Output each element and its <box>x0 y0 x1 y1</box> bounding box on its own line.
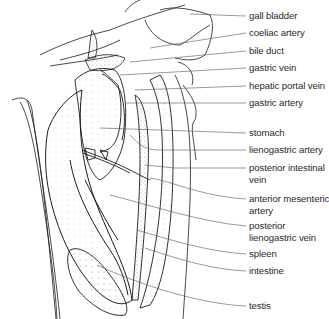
label-gastric-vein: gastric vein <box>249 62 296 74</box>
label-text: posterior <box>249 220 316 232</box>
label-anterior-mesenteric-artery: anterior mesenteric artery <box>249 193 329 217</box>
spleen-outline <box>132 75 173 308</box>
label-text: posterior intestinal <box>249 162 325 174</box>
label-gastric-artery: gastric artery <box>249 97 303 109</box>
label-text: gall bladder <box>249 10 297 21</box>
label-text: hepatic portal vein <box>249 80 325 91</box>
label-coeliac-artery: coeliac artery <box>249 27 305 39</box>
label-posterior-intestinal-vein: posterior intestinal vein <box>249 162 325 186</box>
label-text: vein <box>249 174 325 186</box>
label-gall-bladder: gall bladder <box>249 10 297 22</box>
label-text: coeliac artery <box>249 27 305 38</box>
label-text: lienogastric vein <box>249 232 316 244</box>
label-text: artery <box>249 205 329 217</box>
label-text: testis <box>249 300 271 311</box>
label-intestine: intestine <box>249 265 284 277</box>
label-text: spleen <box>249 248 277 259</box>
label-text: gastric artery <box>249 97 303 108</box>
label-text: anterior mesenteric <box>249 193 329 205</box>
label-text: bile duct <box>249 45 284 56</box>
label-posterior-lienogastric-vein: posterior lienogastric vein <box>249 220 316 244</box>
label-stomach: stomach <box>249 127 285 139</box>
label-text: intestine <box>249 265 284 276</box>
liver-lobes <box>85 30 125 71</box>
label-text: stomach <box>249 127 285 138</box>
label-spleen: spleen <box>249 248 277 260</box>
label-text: lienogastric artery <box>249 144 323 155</box>
label-testis: testis <box>249 300 271 312</box>
label-lienogastric-artery: lienogastric artery <box>249 144 323 156</box>
label-hepatic-portal-vein: hepatic portal vein <box>249 80 325 92</box>
label-bile-duct: bile duct <box>249 45 284 57</box>
label-text: gastric vein <box>249 62 296 73</box>
